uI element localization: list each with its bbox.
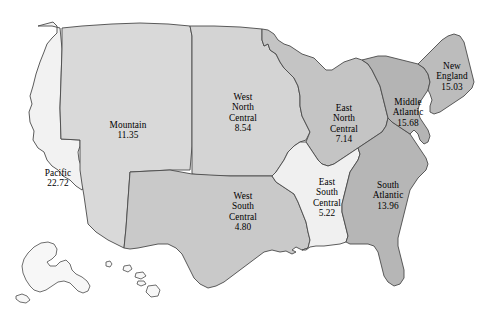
region-west-south-central[interactable] xyxy=(124,170,310,288)
us-census-division-map: Pacific 22.72 Mountain 11.35 West North … xyxy=(0,0,494,315)
map-canvas xyxy=(0,0,494,315)
region-hawaii[interactable] xyxy=(106,261,160,297)
region-alaska[interactable] xyxy=(16,242,90,303)
